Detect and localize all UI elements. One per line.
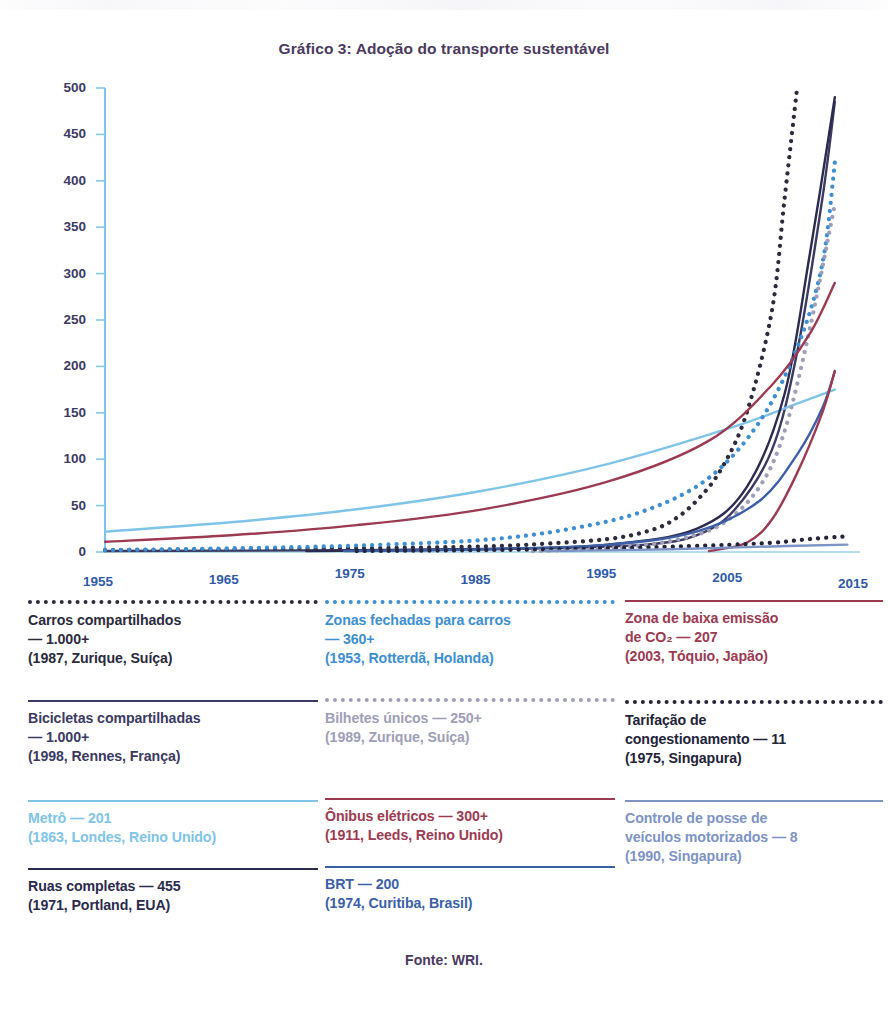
x-axis-tick-label: 1965 <box>209 572 239 587</box>
legend-swatch-brt <box>325 866 615 868</box>
legend-swatch-controle-de-posse-de-veiculos <box>625 800 883 802</box>
y-axis-tick-label: 0 <box>28 544 86 559</box>
legend-swatch-ruas-completas <box>28 868 318 870</box>
series-line-bicicletas-compartilhadas <box>105 102 835 551</box>
legend-label-carros-compartilhados: Carros compartilhados — 1.000+ (1987, Zu… <box>28 611 318 668</box>
y-axis-tick-label: 300 <box>28 266 86 281</box>
chart-title: Gráfico 3: Adoção do transporte sustentá… <box>0 40 888 58</box>
legend-label-zona-de-baixa-emissao-de-co2: Zona de baixa emissão de CO₂ — 207 (2003… <box>625 609 883 666</box>
y-axis-tick-label: 450 <box>28 126 86 141</box>
y-axis-tick-label: 250 <box>28 312 86 327</box>
legend-item-tarifacao-de-congestionamento: Tarifação de congestionamento — 11 (1975… <box>625 700 883 768</box>
plot-area: 050100150200250300350400450500 195519651… <box>0 78 888 578</box>
legend-swatch-zonas-fechadas-para-carros <box>325 600 615 604</box>
legend-item-ruas-completas: Ruas completas — 455 (1971, Portland, EU… <box>28 868 318 915</box>
legend-label-controle-de-posse-de-veiculos: Controle de posse de veículos motorizado… <box>625 809 883 866</box>
legend-label-tarifacao-de-congestionamento: Tarifação de congestionamento — 11 (1975… <box>625 711 883 768</box>
legend-item-zonas-fechadas-para-carros: Zonas fechadas para carros — 360+ (1953,… <box>325 600 615 668</box>
x-axis-tick-label: 1955 <box>83 574 113 589</box>
chart-figure: Gráfico 3: Adoção do transporte sustentá… <box>0 0 888 1027</box>
legend-swatch-bicicletas-compartilhadas <box>28 700 318 702</box>
source-note: Fonte: WRI. <box>0 952 888 968</box>
legend-item-onibus-eletricos: Ônibus elétricos — 300+ (1911, Leeds, Re… <box>325 798 615 845</box>
axes <box>96 88 860 552</box>
legend-item-carros-compartilhados: Carros compartilhados — 1.000+ (1987, Zu… <box>28 600 318 668</box>
chart-plot-svg <box>0 78 888 578</box>
legend-swatch-metro <box>28 800 318 802</box>
series-line-nibus-el-tricos <box>105 283 835 542</box>
scan-artifact-strip <box>0 0 888 10</box>
legend-swatch-onibus-eletricos <box>325 798 615 800</box>
legend-label-onibus-eletricos: Ônibus elétricos — 300+ (1911, Leeds, Re… <box>325 807 615 845</box>
legend-item-zona-de-baixa-emissao-de-co2: Zona de baixa emissão de CO₂ — 207 (2003… <box>625 600 883 666</box>
x-axis-tick-label: 2005 <box>712 570 742 585</box>
series-line-carros-compartilhados <box>105 88 797 550</box>
legend-label-ruas-completas: Ruas completas — 455 (1971, Portland, EU… <box>28 877 318 915</box>
y-axis-tick-label: 400 <box>28 173 86 188</box>
y-axis-tick-label: 200 <box>28 358 86 373</box>
y-axis-tick-label: 100 <box>28 451 86 466</box>
legend-swatch-zona-de-baixa-emissao-de-co2 <box>625 600 883 602</box>
x-axis-tick-label: 1985 <box>461 572 491 587</box>
x-axis-tick-label: 2015 <box>838 576 868 591</box>
legend-item-controle-de-posse-de-veiculos: Controle de posse de veículos motorizado… <box>625 800 883 866</box>
legend-item-bilhetes-unicos: Bilhetes únicos — 250+ (1989, Zurique, S… <box>325 698 615 747</box>
x-axis-tick-label: 1975 <box>335 566 365 581</box>
x-axis-tick-label: 1995 <box>586 566 616 581</box>
legend-label-bicicletas-compartilhadas: Bicicletas compartilhadas — 1.000+ (1998… <box>28 709 318 766</box>
legend-label-brt: BRT — 200 (1974, Curitiba, Brasil) <box>325 875 615 913</box>
y-axis-tick-label: 150 <box>28 405 86 420</box>
y-axis-tick-label: 500 <box>28 80 86 95</box>
legend-item-bicicletas-compartilhadas: Bicicletas compartilhadas — 1.000+ (1998… <box>28 700 318 766</box>
chart-legend: Carros compartilhados — 1.000+ (1987, Zu… <box>0 600 888 960</box>
y-axis-ticks <box>96 88 105 552</box>
data-series-layer <box>105 88 847 551</box>
y-axis-tick-label: 350 <box>28 219 86 234</box>
legend-label-zonas-fechadas-para-carros: Zonas fechadas para carros — 360+ (1953,… <box>325 611 615 668</box>
legend-swatch-carros-compartilhados <box>28 600 318 604</box>
legend-swatch-bilhetes-unicos <box>325 698 615 702</box>
legend-item-brt: BRT — 200 (1974, Curitiba, Brasil) <box>325 866 615 913</box>
y-axis-tick-label: 50 <box>28 498 86 513</box>
legend-label-metro: Metrô — 201 (1863, Londes, Reino Unido) <box>28 809 318 847</box>
legend-label-bilhetes-unicos: Bilhetes únicos — 250+ (1989, Zurique, S… <box>325 709 615 747</box>
legend-swatch-tarifacao-de-congestionamento <box>625 700 883 704</box>
legend-item-metro: Metrô — 201 (1863, Londes, Reino Unido) <box>28 800 318 847</box>
